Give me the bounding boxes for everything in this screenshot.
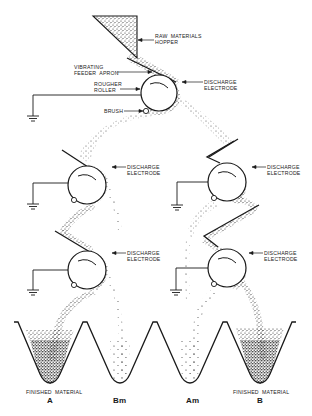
bin-b-label: B: [257, 396, 263, 405]
discharge-electrode-label-low-left: DISCHARGEELECTRODE: [127, 250, 161, 262]
hopper-label: RAW MATERIALSHOPPER: [155, 33, 202, 45]
electrode-mid-right-line2: ELECTRODE: [267, 170, 301, 176]
roller-low-left: [68, 251, 106, 289]
bin-a-label: A: [47, 396, 53, 405]
roller-mid-right: [208, 163, 246, 201]
bin-contents: [26, 328, 284, 384]
discharge-electrode-label-mid-left: DISCHARGEELECTRODE: [127, 164, 161, 176]
discharge-electrode-label-low-right: DISCHARGEELECTRODE: [264, 250, 298, 262]
electrode-low-right-line2: ELECTRODE: [264, 256, 298, 262]
electrode-mid-left-line2: ELECTRODE: [127, 170, 161, 176]
bin-a-caption: FINISHED MATERIAL: [26, 389, 82, 395]
raw-materials-hopper: [93, 16, 137, 58]
bin-b-caption: FINISHED MATERIAL: [233, 389, 289, 395]
feeder-apron-label: VIBRATINGFEEDER APRON: [74, 64, 119, 76]
discharge-electrode-label-mid-right: DISCHARGEELECTRODE: [267, 164, 301, 176]
bin-bm-label: Bm: [113, 396, 126, 405]
roller-mid-left: [68, 166, 106, 204]
feeder-label-line2: FEEDER APRON: [74, 70, 119, 76]
electrode-low-left-line2: ELECTRODE: [127, 256, 161, 262]
electrode-top-line2: ELECTRODE: [204, 85, 238, 91]
brush-label: BRUSH: [104, 108, 123, 114]
hopper-label-line2: HOPPER: [155, 39, 202, 45]
bin-am-label: Am: [186, 396, 199, 405]
leader-arrows: [112, 39, 266, 255]
roller-low-right: [208, 249, 246, 287]
roller-label-line2: ROLLER: [94, 87, 122, 93]
separator-diagram: [0, 0, 312, 416]
discharge-electrode-label-top: DISCHARGEELECTRODE: [204, 79, 238, 91]
rougher-roller-label: ROUGHERROLLER: [94, 81, 122, 93]
